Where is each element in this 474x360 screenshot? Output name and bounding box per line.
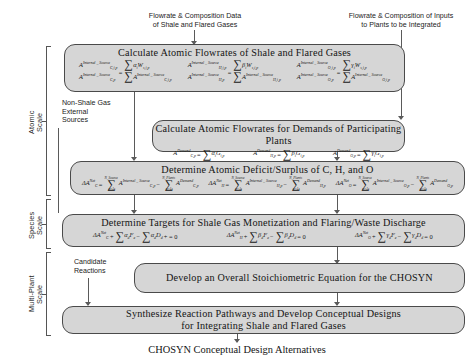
arrowhead-box6-to-caption <box>234 339 240 343</box>
box-develop-stoichiometric-equation[interactable]: Develop an Overall Stoichiometric Equati… <box>134 263 465 293</box>
box-title: Develop an Overall Stoichiometric Equati… <box>166 272 433 284</box>
box1-equations: AInternal _ SourceC,i,p AInternal _ Sour… <box>65 60 404 85</box>
chosyn-flowchart-figure: Flowrate & Composition Data of Shale and… <box>0 0 474 360</box>
box-calculate-shale-flared-flowrates[interactable]: Calculate Atomic Flowrates of Shale and … <box>64 44 405 92</box>
figure-caption: CHOSYN Conceptual Design Alternatives <box>0 344 474 355</box>
box-determine-atomic-deficit-surplus[interactable]: Determine Atomic Deficit/Surplus of C, H… <box>70 161 465 195</box>
box-determine-targets[interactable]: Determine Targets for Shale Gas Monetiza… <box>62 214 465 247</box>
equation-target-hydrogen: ΔANetH + ∑ βdFe − ∑ βdDd = 0 <box>227 230 307 242</box>
box-synthesize-reaction-pathways[interactable]: Synthesize Reaction Pathways and Develop… <box>62 306 465 334</box>
equation-target-carbon: ΔANetC + ∑ αdFe − ∑ αdDd + = 0 <box>93 230 179 242</box>
arrowhead-plants-to-box2 <box>398 116 404 120</box>
equation-carbon-demand: ADemandC,p = ∑ αiGi,p <box>173 148 224 160</box>
annotation-candidate-reactions: Candidate Reactions <box>74 258 134 275</box>
equation-carbon-internal-source: AInternal _ SourceC,i,p AInternal _ Sour… <box>79 60 172 85</box>
scale-label-species: Species Scale <box>28 208 44 242</box>
equation-oxygen-demand: ADemandO,p = ∑ γiGi,p <box>333 148 384 160</box>
box-title: Determine Targets for Shale Gas Monetiza… <box>101 217 426 229</box>
scale-label-multiplant: Multi-Plant Scale <box>28 268 44 320</box>
annotation-non-shale-external-sources: Non-Shale Gas External Sources <box>62 99 132 125</box>
box-title: Synthesize Reaction Pathways and Develop… <box>126 308 401 332</box>
box-title: Calculate Atomic Flowrates for Demands o… <box>153 123 404 147</box>
equation-net-carbon-deficit: ΔANetC = N_Source∑p=1 AInternal _ Source… <box>82 177 199 191</box>
annotation-input-plants: Flowrate & Composition of Inputs to Plan… <box>330 12 472 29</box>
equation-target-oxygen: ΔANetO + ∑ γdFe − ∑ γdDd = 0 <box>355 230 434 242</box>
connector-nonshale-rail <box>58 128 59 213</box>
equation-net-hydrogen-deficit: ΔANetH = N_Source∑p=1 AInternal _ Source… <box>209 177 326 191</box>
equation-net-oxygen-deficit: ΔANetO = N_Source∑p=1 AInternal _ Source… <box>336 177 453 191</box>
equation-hydrogen-demand: ADemandH,p = ∑ βiGi,p <box>253 148 304 160</box>
connector-box1-to-box3 <box>134 92 135 159</box>
scale-label-atomic: Atomic Scale <box>28 92 44 152</box>
box4-equations: ΔANetC + ∑ αdFe − ∑ αdDd + = 0 ΔANetH + … <box>63 230 464 242</box>
box3-equations: ΔANetC = N_Source∑p=1 AInternal _ Source… <box>71 177 464 191</box>
equation-oxygen-internal-source: AInternal _ SourceO,i,p AInternal _ Sour… <box>297 60 390 85</box>
equation-hydrogen-internal-source: AInternal _ SourceH,i,p AInternal _ Sour… <box>188 60 281 85</box>
box-title: Determine Atomic Deficit/Surplus of C, H… <box>161 164 373 176</box>
connector-candidate-to-box6 <box>88 278 89 305</box>
annotation-input-shale-flared: Flowrate & Composition Data of Shale and… <box>128 12 262 29</box>
box2-equations: ADemandC,p = ∑ αiGi,p ADemandH,p = ∑ βiG… <box>153 148 404 160</box>
box-calculate-plant-demands[interactable]: Calculate Atomic Flowrates for Demands o… <box>152 120 405 152</box>
